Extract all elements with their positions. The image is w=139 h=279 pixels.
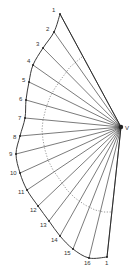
pattern-development-diagram: 123456789101112131415161 V bbox=[0, 0, 139, 279]
point-label: 5 bbox=[22, 77, 26, 83]
point-marker bbox=[19, 172, 21, 174]
ray-line bbox=[43, 48, 121, 127]
dotted-arc bbox=[42, 57, 112, 212]
ray-line bbox=[33, 65, 121, 127]
point-marker bbox=[106, 256, 108, 258]
point-label: 1 bbox=[52, 7, 56, 13]
point-label: 2 bbox=[46, 26, 50, 32]
apex-point bbox=[119, 125, 123, 129]
point-marker bbox=[25, 99, 27, 101]
point-marker bbox=[37, 205, 39, 207]
point-label: 13 bbox=[40, 222, 47, 228]
ray-lines bbox=[16, 14, 121, 258]
point-marker bbox=[28, 81, 30, 83]
point-label: 9 bbox=[9, 151, 13, 157]
ray-line bbox=[54, 32, 121, 127]
outer-curve bbox=[16, 14, 121, 258]
point-marker bbox=[88, 257, 90, 259]
point-label: 10 bbox=[10, 170, 17, 176]
point-label: 7 bbox=[18, 115, 22, 121]
point-marker bbox=[19, 135, 21, 137]
point-label: 4 bbox=[27, 58, 31, 64]
point-marker bbox=[59, 13, 61, 15]
point-label: 3 bbox=[36, 41, 40, 47]
point-marker bbox=[32, 64, 34, 66]
point-marker bbox=[59, 235, 61, 237]
ray-line bbox=[60, 127, 121, 236]
point-labels: 123456789101112131415161 bbox=[9, 7, 109, 266]
point-marker bbox=[26, 189, 28, 191]
point-marker bbox=[53, 31, 55, 33]
point-marker bbox=[42, 47, 44, 49]
point-label: 1 bbox=[105, 260, 109, 266]
apex-label: V bbox=[125, 125, 129, 131]
point-label: 14 bbox=[51, 237, 58, 243]
point-label: 6 bbox=[19, 96, 23, 102]
point-markers bbox=[15, 13, 108, 259]
ray-line bbox=[20, 127, 121, 136]
point-marker bbox=[15, 153, 17, 155]
point-label: 11 bbox=[18, 189, 25, 195]
radial-development-figure: 123456789101112131415161 V bbox=[0, 0, 139, 279]
point-label: 15 bbox=[64, 250, 71, 256]
point-label: 16 bbox=[84, 260, 91, 266]
ray-line bbox=[38, 127, 121, 206]
point-marker bbox=[24, 117, 26, 119]
ray-line bbox=[49, 127, 121, 221]
point-label: 8 bbox=[13, 134, 17, 140]
ray-line bbox=[89, 127, 121, 258]
point-marker bbox=[72, 248, 74, 250]
ray-line bbox=[25, 118, 121, 127]
point-marker bbox=[48, 220, 50, 222]
ray-line bbox=[27, 127, 121, 190]
point-label: 12 bbox=[30, 207, 37, 213]
ray-line bbox=[16, 127, 121, 154]
